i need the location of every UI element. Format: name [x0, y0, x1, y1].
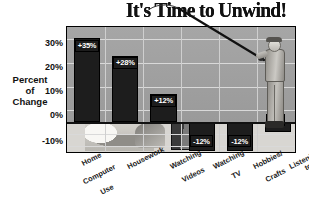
y-tick-label-0: 0%: [29, 110, 63, 120]
y-tick-label-20: 20%: [29, 62, 63, 72]
y-tick-label-30: 30%: [29, 38, 63, 48]
x-label-line-1: Home: [80, 150, 103, 167]
fishing-rod-and-line: [120, 2, 280, 78]
fisherman-boots: [265, 121, 284, 128]
chart-figure: It's Time to Unwind! Percent of Change 3…: [0, 0, 309, 202]
y-tick-label-10: 10%: [29, 86, 63, 96]
x-label-line-2: TV: [230, 168, 243, 180]
fisherman-legs: [267, 79, 284, 125]
fisherman-leg-split: [274, 85, 275, 123]
data-label-home-computer-use: +35%: [75, 40, 100, 52]
y-axis-ticks: 30% 20% 10% 0% -10%: [25, 0, 63, 202]
fishing-line-icon: [146, 5, 178, 12]
data-label-watching-videos: +12%: [151, 95, 176, 107]
x-label-line-2: the Radio: [308, 175, 309, 198]
x-axis-labels: Home Computer Use Housework Watching Vid…: [60, 154, 309, 202]
y-tick-label-minus-10: -10%: [29, 136, 63, 146]
x-label-line-2: Videos: [180, 165, 206, 184]
x-label-line-1: Listening to: [287, 148, 309, 173]
fisherman-hat: [266, 37, 282, 42]
x-label-line-1: Watching: [211, 147, 245, 170]
fishing-rod-icon: [178, 8, 264, 60]
fisherman-figure: [258, 37, 294, 137]
x-label-line-3: Use: [98, 182, 114, 196]
category-separator-1: [105, 27, 106, 152]
x-label-line-2: Crafts: [264, 166, 287, 184]
